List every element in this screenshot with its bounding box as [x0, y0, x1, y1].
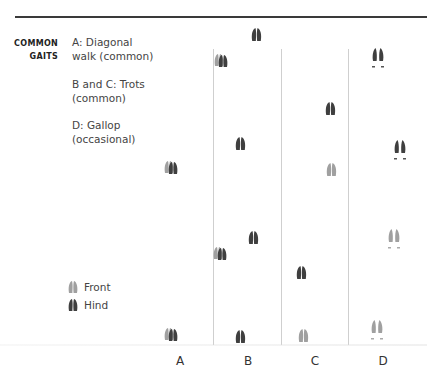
overlap-hoofprint-icon: [214, 53, 230, 68]
gait-description-a: A: Diagonal walk (common): [72, 35, 172, 63]
gait-bc-line1: B and C: Trots: [72, 77, 172, 91]
gait-a-line1: A: Diagonal: [72, 35, 172, 49]
hind-hoofprint-icon: [248, 230, 259, 245]
gait-description-bc: B and C: Trots (common): [72, 77, 172, 105]
gait-d-line1: D: Gallop: [72, 118, 172, 132]
gait-description-d: D: Gallop (occasional): [72, 118, 172, 146]
overlap-hoofprint-icon: [213, 246, 229, 261]
hind-hoofprint-icon: [235, 329, 246, 344]
column-label-c: C: [305, 354, 325, 368]
gallop-front-hoofprint-icon: [387, 228, 401, 250]
hind-hoofprint-icon: [235, 136, 246, 151]
section-label: COMMON GAITS: [14, 37, 58, 63]
legend-hind-label: Hind: [84, 299, 108, 311]
hind-hoofprint-icon: [251, 27, 262, 42]
gait-a-line2: walk (common): [72, 49, 172, 63]
column-label-b: B: [238, 354, 258, 368]
front-hoofprint-icon: [326, 162, 337, 177]
section-label-line2: GAITS: [14, 50, 58, 63]
divider-a-b: [213, 49, 214, 345]
divider-c-d: [348, 49, 349, 345]
gallop-hind-hoofprint-icon: [371, 47, 385, 69]
divider-b-c: [281, 49, 282, 345]
overlap-hoofprint-icon: [164, 327, 180, 342]
hind-hoofprint-icon: [296, 265, 307, 280]
column-label-a: A: [170, 354, 190, 368]
front-hoofprint-icon: [298, 328, 309, 343]
hind-hoofprint-icon: [325, 101, 336, 116]
legend-front: Front: [68, 280, 111, 294]
overlap-hoofprint-icon: [164, 160, 180, 175]
legend-hind: Hind: [68, 298, 108, 312]
hind-hoof-icon: [68, 298, 78, 312]
column-label-d: D: [373, 354, 393, 368]
top-rule: [15, 16, 427, 18]
ground-line: [0, 344, 427, 346]
gait-d-line2: (occasional): [72, 132, 172, 146]
gait-bc-line2: (common): [72, 91, 172, 105]
gallop-front-hoofprint-icon: [370, 319, 384, 341]
gallop-hind-hoofprint-icon: [393, 139, 407, 161]
front-hoof-icon: [68, 280, 78, 294]
legend-front-label: Front: [84, 281, 111, 293]
section-label-line1: COMMON: [14, 37, 58, 50]
